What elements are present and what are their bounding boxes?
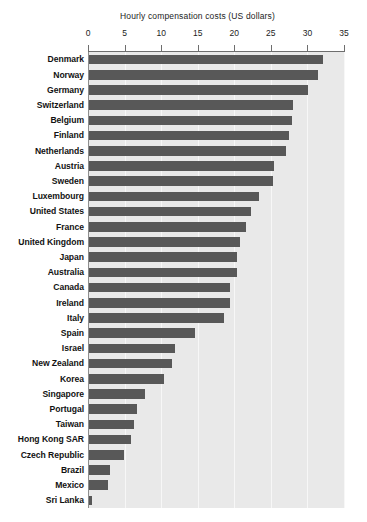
bar [89, 222, 246, 232]
bar [89, 237, 240, 247]
bar-row [88, 100, 344, 110]
bar [89, 252, 237, 262]
bar-row [88, 131, 344, 141]
x-tick-mark [344, 45, 345, 51]
bar [89, 161, 274, 171]
x-tick-mark [198, 45, 199, 51]
bar-row [88, 222, 344, 232]
bar [89, 404, 137, 414]
bar-row [88, 328, 344, 338]
bar [89, 85, 308, 95]
bar-row [88, 207, 344, 217]
category-label: Ireland [0, 298, 84, 308]
category-label: Portugal [0, 404, 84, 414]
category-label: Norway [0, 70, 84, 80]
category-label: Austria [0, 161, 84, 171]
bar [89, 100, 293, 110]
x-tick-mark [307, 45, 308, 51]
x-tick-mark [125, 45, 126, 51]
category-label: Japan [0, 252, 84, 262]
x-tick-label: 15 [193, 28, 202, 38]
category-label: Taiwan [0, 419, 84, 429]
bar [89, 420, 134, 430]
category-label: Belgium [0, 115, 84, 125]
category-label: Denmark [0, 54, 84, 64]
category-label: Finland [0, 130, 84, 140]
chart-title: Hourly compensation costs (US dollars) [0, 11, 367, 21]
bar-chart-figure: Hourly compensation costs (US dollars) 0… [0, 0, 367, 522]
bar-row [88, 252, 344, 262]
bar [89, 374, 164, 384]
bar-row [88, 420, 344, 430]
gridline [344, 52, 345, 508]
category-labels: DenmarkNorwayGermanySwitzerlandBelgiumFi… [0, 52, 84, 508]
category-label: Singapore [0, 389, 84, 399]
bar-row [88, 359, 344, 369]
bars-container [88, 52, 344, 508]
bar [89, 435, 131, 445]
bar [89, 176, 273, 186]
category-label: France [0, 222, 84, 232]
x-tick-mark [234, 45, 235, 51]
category-label: United Kingdom [0, 237, 84, 247]
category-label: Mexico [0, 480, 84, 490]
figure-bottom-margin [0, 510, 367, 522]
bar [89, 389, 145, 399]
x-tick-mark [271, 45, 272, 51]
category-label: Luxembourg [0, 191, 84, 201]
bar [89, 207, 251, 217]
category-label: Spain [0, 328, 84, 338]
bar [89, 480, 108, 490]
x-tick-label: 30 [303, 28, 312, 38]
bar [89, 131, 289, 141]
category-label: Canada [0, 282, 84, 292]
x-tick-label: 5 [122, 28, 127, 38]
bar [89, 192, 259, 202]
bar [89, 359, 172, 369]
bar-row [88, 192, 344, 202]
bar-row [88, 146, 344, 156]
bar [89, 268, 237, 278]
bar-row [88, 313, 344, 323]
bar [89, 496, 92, 506]
bar-row [88, 237, 344, 247]
category-label: New Zealand [0, 358, 84, 368]
bar [89, 313, 224, 323]
bar-row [88, 268, 344, 278]
bar-row [88, 435, 344, 445]
x-tick-label: 0 [86, 28, 91, 38]
category-label: Netherlands [0, 146, 84, 156]
bar-row [88, 176, 344, 186]
bar-row [88, 298, 344, 308]
bar [89, 328, 195, 338]
bar [89, 116, 292, 126]
category-label: Hong Kong SAR [0, 434, 84, 444]
bar [89, 298, 230, 308]
bar-row [88, 465, 344, 475]
bar [89, 283, 230, 293]
x-tick-mark [161, 45, 162, 51]
bar-row [88, 374, 344, 384]
category-label: United States [0, 206, 84, 216]
bar-row [88, 85, 344, 95]
x-tick-label: 35 [339, 28, 348, 38]
bar-row [88, 70, 344, 80]
bar-row [88, 496, 344, 506]
x-tick-label: 25 [266, 28, 275, 38]
x-tick-label: 10 [156, 28, 165, 38]
plot-area [88, 52, 344, 508]
category-label: Korea [0, 374, 84, 384]
category-label: Sweden [0, 176, 84, 186]
category-label: Israel [0, 343, 84, 353]
x-tick-mark [88, 45, 89, 51]
bar-row [88, 116, 344, 126]
bar [89, 450, 124, 460]
bar-row [88, 161, 344, 171]
x-tick-label: 20 [230, 28, 239, 38]
category-label: Italy [0, 313, 84, 323]
bar [89, 70, 318, 80]
bar-row [88, 283, 344, 293]
bar [89, 55, 323, 65]
category-label: Sri Lanka [0, 495, 84, 505]
category-label: Czech Republic [0, 450, 84, 460]
